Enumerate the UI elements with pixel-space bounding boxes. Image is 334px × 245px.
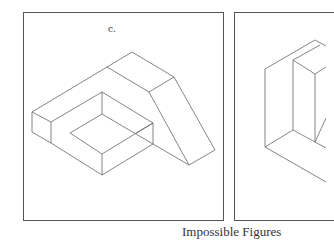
impossible-figure-d	[265, 40, 326, 182]
figure-caption: Impossible Figures	[182, 224, 281, 240]
impossible-figure-c	[32, 52, 215, 175]
